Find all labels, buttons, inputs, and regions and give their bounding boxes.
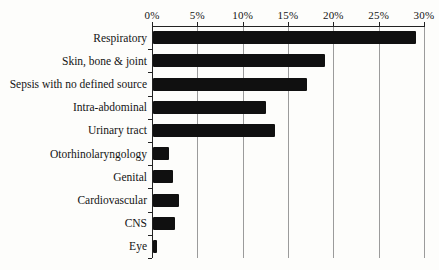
y-axis-tick (148, 119, 152, 120)
y-axis-tick (148, 258, 152, 259)
bar (153, 124, 275, 137)
bar-chart-figure: 0%5%10%15%20%25%30%RespiratorySkin, bone… (0, 0, 439, 270)
y-axis-tick (148, 142, 152, 143)
x-axis-tick-label: 5% (190, 9, 205, 21)
category-label: Eye (129, 240, 147, 252)
gridline (379, 26, 380, 258)
bar (153, 147, 169, 160)
y-axis-tick (148, 72, 152, 73)
bar (153, 31, 416, 44)
x-axis-tick-label: 10% (232, 9, 253, 21)
y-axis-tick (148, 96, 152, 97)
category-label: Cardiovascular (77, 194, 147, 206)
x-axis-tick-label: 20% (323, 9, 344, 21)
y-axis-tick (148, 235, 152, 236)
y-axis-tick (148, 165, 152, 166)
x-axis-tick-label: 30% (414, 9, 435, 21)
bar (153, 101, 266, 114)
y-axis-tick (148, 212, 152, 213)
x-axis-tick-label: 15% (278, 9, 299, 21)
y-axis-tick (148, 188, 152, 189)
bar (153, 78, 307, 91)
category-label: Urinary tract (88, 124, 147, 136)
x-axis-tick-label: 25% (368, 9, 389, 21)
x-axis-line (152, 26, 425, 27)
category-label: Otorhinolaryngology (50, 148, 147, 160)
y-axis-tick (148, 49, 152, 50)
category-label: CNS (125, 217, 147, 229)
x-axis-tick-label: 0% (144, 9, 159, 21)
bar (153, 240, 157, 253)
category-label: Skin, bone & joint (62, 55, 147, 67)
category-label: Sepsis with no defined source (10, 78, 147, 90)
bar (153, 54, 325, 67)
category-label: Intra-abdominal (73, 101, 147, 113)
bar (153, 217, 175, 230)
bar (153, 194, 179, 207)
bar (153, 170, 173, 183)
category-label: Genital (113, 171, 147, 183)
gridline (333, 26, 334, 258)
gridline (424, 26, 425, 258)
category-label: Respiratory (93, 32, 147, 44)
